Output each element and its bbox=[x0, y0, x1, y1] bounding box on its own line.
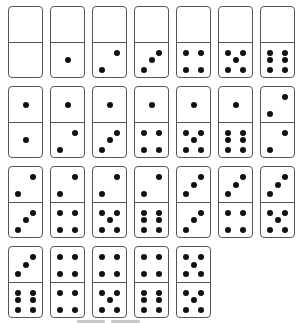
domino-0-0[interactable] bbox=[8, 6, 43, 78]
domino-1-2[interactable] bbox=[50, 86, 85, 158]
domino-1-1[interactable] bbox=[8, 86, 43, 158]
domino-half-bottom bbox=[51, 202, 84, 237]
pip-icon bbox=[156, 210, 162, 216]
pip-icon bbox=[156, 297, 162, 303]
domino-5-5[interactable] bbox=[176, 246, 211, 318]
domino-0-1[interactable] bbox=[50, 6, 85, 78]
pip-icon bbox=[240, 227, 246, 233]
pip-icon bbox=[156, 290, 162, 296]
pip-icon bbox=[156, 130, 162, 136]
domino-half-top bbox=[51, 7, 84, 42]
pip-icon bbox=[141, 191, 147, 197]
domino-3-6[interactable] bbox=[8, 246, 43, 318]
domino-0-3[interactable] bbox=[134, 6, 169, 78]
domino-4-6[interactable] bbox=[134, 246, 169, 318]
pip-icon bbox=[30, 210, 36, 216]
pip-icon bbox=[225, 130, 231, 136]
domino-half-top bbox=[135, 247, 168, 282]
pip-icon bbox=[114, 290, 120, 296]
domino-half-top bbox=[177, 87, 210, 122]
domino-half-top bbox=[219, 7, 252, 42]
domino-half-bottom bbox=[93, 42, 126, 77]
domino-0-2[interactable] bbox=[92, 6, 127, 78]
pip-icon bbox=[198, 67, 204, 73]
pip-icon bbox=[225, 67, 231, 73]
pip-icon bbox=[240, 137, 246, 143]
pip-icon bbox=[183, 254, 189, 260]
domino-1-6[interactable] bbox=[218, 86, 253, 158]
pip-icon bbox=[114, 174, 120, 180]
pip-icon bbox=[156, 227, 162, 233]
domino-half-bottom bbox=[219, 202, 252, 237]
pip-icon bbox=[141, 290, 147, 296]
domino-0-5[interactable] bbox=[218, 6, 253, 78]
domino-half-bottom bbox=[219, 42, 252, 77]
pip-icon bbox=[15, 297, 21, 303]
domino-half-bottom bbox=[135, 42, 168, 77]
pip-icon bbox=[191, 137, 197, 143]
domino-2-2[interactable] bbox=[260, 86, 295, 158]
domino-half-top bbox=[93, 87, 126, 122]
domino-half-bottom bbox=[177, 42, 210, 77]
domino-half-top bbox=[9, 247, 42, 282]
pip-icon bbox=[240, 210, 246, 216]
domino-half-top bbox=[93, 7, 126, 42]
domino-0-4[interactable] bbox=[176, 6, 211, 78]
pip-icon bbox=[99, 307, 105, 313]
pip-icon bbox=[57, 227, 63, 233]
domino-1-3[interactable] bbox=[92, 86, 127, 158]
pip-icon bbox=[99, 147, 105, 153]
pip-icon bbox=[141, 254, 147, 260]
pip-icon bbox=[15, 271, 21, 277]
domino-half-top bbox=[9, 167, 42, 202]
domino-3-5[interactable] bbox=[260, 166, 295, 238]
pip-icon bbox=[225, 50, 231, 56]
pip-icon bbox=[267, 57, 273, 63]
pip-icon bbox=[240, 67, 246, 73]
domino-1-4[interactable] bbox=[134, 86, 169, 158]
domino-half-bottom bbox=[177, 202, 210, 237]
domino-half-top bbox=[219, 87, 252, 122]
domino-half-bottom bbox=[261, 122, 294, 157]
pip-icon bbox=[191, 262, 197, 268]
pip-icon bbox=[233, 182, 239, 188]
pip-icon bbox=[72, 130, 78, 136]
pip-icon bbox=[156, 147, 162, 153]
pip-icon bbox=[183, 147, 189, 153]
pip-icon bbox=[107, 102, 113, 108]
pip-icon bbox=[57, 307, 63, 313]
domino-4-4[interactable] bbox=[50, 246, 85, 318]
pip-icon bbox=[114, 227, 120, 233]
domino-half-top bbox=[51, 167, 84, 202]
domino-half-top bbox=[93, 167, 126, 202]
domino-2-5[interactable] bbox=[92, 166, 127, 238]
domino-half-bottom bbox=[135, 202, 168, 237]
domino-2-3[interactable] bbox=[8, 166, 43, 238]
domino-2-4[interactable] bbox=[50, 166, 85, 238]
pip-icon bbox=[99, 210, 105, 216]
pip-icon bbox=[114, 210, 120, 216]
pip-icon bbox=[72, 271, 78, 277]
domino-1-5[interactable] bbox=[176, 86, 211, 158]
domino-half-top bbox=[51, 87, 84, 122]
domino-half-bottom bbox=[135, 122, 168, 157]
pip-icon bbox=[57, 254, 63, 260]
domino-0-6[interactable] bbox=[260, 6, 295, 78]
pip-icon bbox=[240, 50, 246, 56]
pip-icon bbox=[57, 147, 63, 153]
pip-icon bbox=[275, 182, 281, 188]
pip-icon bbox=[198, 174, 204, 180]
pip-icon bbox=[156, 174, 162, 180]
pip-icon bbox=[107, 297, 113, 303]
domino-3-3[interactable] bbox=[176, 166, 211, 238]
pip-icon bbox=[99, 290, 105, 296]
domino-4-5[interactable] bbox=[92, 246, 127, 318]
domino-half-bottom bbox=[9, 122, 42, 157]
domino-2-6[interactable] bbox=[134, 166, 169, 238]
pip-icon bbox=[72, 174, 78, 180]
domino-3-4[interactable] bbox=[218, 166, 253, 238]
pip-icon bbox=[141, 67, 147, 73]
pip-icon bbox=[141, 210, 147, 216]
pip-icon bbox=[23, 102, 29, 108]
pip-icon bbox=[198, 50, 204, 56]
